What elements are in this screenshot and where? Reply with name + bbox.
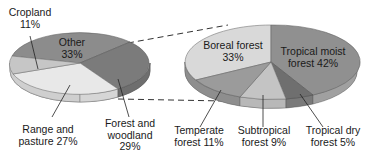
label-boreal: Boreal forest 33%	[200, 40, 266, 63]
label-subtropical: Subtropical forest 9%	[234, 125, 294, 148]
label-other: Other 33%	[54, 37, 90, 60]
label-range-pasture: Range and pasture 27%	[14, 124, 82, 147]
label-cropland: Cropland 11%	[6, 7, 54, 30]
label-forest-woodland: Forest and woodland 29%	[104, 118, 156, 153]
label-tropical-dry: Tropical dry forest 5%	[303, 125, 363, 148]
label-temperate: Temperate forest 11%	[169, 125, 229, 148]
label-tropical-moist: Tropical moist forest 42%	[276, 46, 350, 69]
